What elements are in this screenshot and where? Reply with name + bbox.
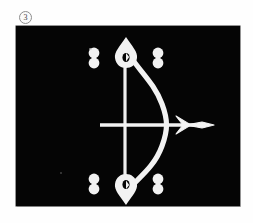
figure-number-badge: 3 [19,11,32,24]
emulsion-speck [60,172,62,174]
dot [89,58,100,69]
dot [153,184,164,195]
bottom-right-dot-pair [153,174,164,195]
dot [153,48,164,59]
bottom-left-dot-pair [89,174,100,195]
top-finial-group [115,37,137,68]
bow-and-arrow-drawing [16,26,240,206]
top-finial-outline [115,37,137,68]
dot [89,174,100,185]
dot [153,174,164,185]
emulsion-speck [89,48,92,50]
dot [153,58,164,69]
plate-image-area [16,26,240,206]
figure-plate [16,26,240,206]
bottom-finial-group [115,174,137,205]
page-canvas: 3 [0,0,253,223]
plate-bottom-edge [17,206,241,207]
dot [89,184,100,195]
top-left-dot-pair [89,48,100,69]
top-right-dot-pair [153,48,164,69]
bottom-finial-outline [115,174,137,205]
bow-limb-path [126,50,167,192]
